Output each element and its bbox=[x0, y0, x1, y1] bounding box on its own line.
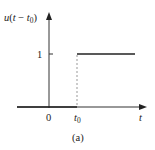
y-tick-label-1: 1 bbox=[37, 49, 42, 60]
origin-label: 0 bbox=[46, 112, 51, 123]
y-axis-arrow-icon bbox=[46, 12, 52, 20]
step-time-label: t0 bbox=[74, 112, 81, 125]
unit-step-diagram: u(t − t0) 1 0 t0 t (a) bbox=[0, 0, 155, 150]
x-axis-label: t bbox=[139, 112, 143, 123]
figure-caption: (a) bbox=[72, 132, 84, 144]
y-axis-label: u(t − t0) bbox=[4, 12, 38, 25]
x-axis-arrow-icon bbox=[139, 104, 147, 110]
